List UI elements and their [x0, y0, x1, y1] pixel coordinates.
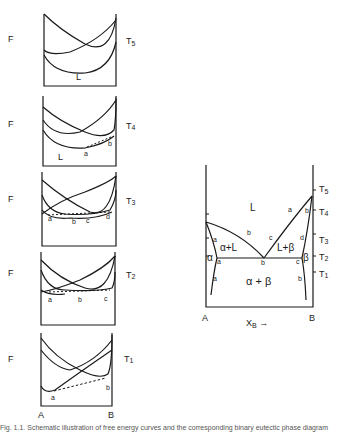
point-b-t1: b [106, 384, 110, 391]
pd-axis-b: B [309, 313, 315, 323]
point-b-t4: b [108, 140, 112, 147]
point-c-t3: c [86, 217, 90, 224]
f-label-t1: F [8, 354, 14, 364]
region-liquid: L [250, 202, 256, 213]
pd-temp-t1: T1 [319, 269, 329, 279]
point-a-t4: a [84, 150, 88, 157]
pd-point-a-t2: a [217, 258, 221, 265]
f-label-t3: F [8, 194, 14, 204]
pd-point-a-t1: a [213, 275, 217, 282]
point-b-t2: b [78, 296, 82, 303]
pd-point-a-t4: a [288, 206, 292, 213]
pd-temp-t2: T2 [319, 252, 329, 262]
pd-point-d-t3: d [300, 234, 304, 241]
figure-canvas: F T5 L F T4 L a b F T3 a b c d F T2 a b … [0, 0, 349, 433]
pd-temp-t3: T3 [319, 235, 329, 245]
point-c-t2: c [104, 295, 108, 302]
temp-label-t1: T1 [124, 354, 134, 364]
temp-label-t4: T4 [126, 121, 136, 131]
pd-point-b-t2: b [261, 259, 265, 266]
f-label-t5: F [8, 34, 14, 44]
pd-point-c-t2: c [296, 258, 300, 265]
point-b-t3: b [72, 218, 76, 225]
region-alpha-beta: α + β [246, 275, 271, 287]
temp-label-t2: T2 [126, 270, 136, 280]
temp-label-t5: T5 [126, 36, 136, 47]
phase-l-t4: L [58, 152, 63, 162]
region-beta: β [303, 252, 309, 263]
f-label-t4: F [8, 119, 14, 129]
f-label-t2: F [8, 268, 14, 278]
point-d-t3: d [106, 213, 110, 220]
region-alpha: α [207, 252, 213, 263]
panel-t2 [41, 252, 115, 325]
figure-caption: Fig. 1.1. Schematic illustration of free… [0, 424, 328, 431]
pd-point-c-t3: c [269, 234, 273, 241]
pd-point-a-t3: a [213, 236, 217, 243]
panel-t3 [42, 172, 116, 246]
pd-axis-a: A [202, 313, 208, 323]
pd-point-b-t4: b [305, 207, 309, 214]
pd-point-b-t1: b [298, 275, 302, 282]
pd-temp-t5: T5 [319, 184, 329, 195]
point-a-t1: a [51, 394, 55, 401]
point-a-t3: a [48, 215, 52, 222]
panel-t4 [43, 96, 116, 166]
temp-label-t3: T3 [126, 196, 136, 206]
point-a-t2: a [48, 296, 52, 303]
pd-x-label: XB → [246, 318, 268, 329]
axis-b-left: B [108, 410, 114, 420]
phase-l-t5: L [76, 72, 81, 82]
region-liquid-beta: L+β [277, 242, 294, 253]
pd-point-b-t3: b [247, 229, 251, 236]
region-alpha-liquid: α+L [220, 242, 238, 253]
pd-temp-t4: T4 [319, 207, 329, 217]
axis-a-left: A [38, 410, 44, 420]
